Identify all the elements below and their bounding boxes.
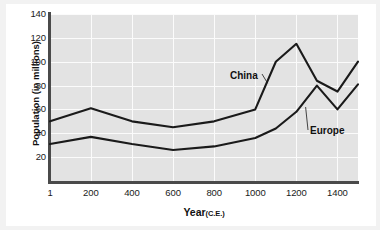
x-axis-title: Year(C.E.)	[50, 202, 358, 220]
gridline-horizontal	[50, 157, 358, 158]
gridline-horizontal	[50, 62, 358, 63]
gridline-vertical	[337, 14, 338, 181]
gridline-horizontal	[50, 14, 358, 15]
x-axis-line	[48, 181, 359, 184]
series-label-europe: Europe	[310, 126, 344, 136]
x-axis-title-text: Year	[183, 206, 205, 218]
x-tick-label: 200	[83, 188, 99, 198]
gridline-vertical	[255, 14, 256, 181]
gridline-vertical	[173, 14, 174, 181]
gridline-vertical	[132, 14, 133, 181]
population-line-chart: 20406080100120140 1200400600800100012001…	[0, 0, 380, 230]
plot-area	[50, 14, 358, 181]
x-tick-label: 1	[47, 188, 52, 198]
gridline-vertical	[296, 14, 297, 181]
x-axis-title-suffix: (C.E.)	[206, 209, 225, 218]
x-tick-label: 1000	[245, 188, 266, 198]
y-axis-title-text: Population (in millions)	[30, 41, 41, 146]
x-tick-label: 800	[206, 188, 222, 198]
gridline-horizontal	[50, 109, 358, 110]
gridline-vertical	[214, 14, 215, 181]
x-tick-label: 400	[124, 188, 140, 198]
gridline-horizontal	[50, 86, 358, 87]
y-axis-title: Population (in millions)	[30, 9, 41, 179]
chart-page: 20406080100120140 1200400600800100012001…	[0, 0, 380, 230]
x-tick-label: 600	[165, 188, 181, 198]
gridline-horizontal	[50, 38, 358, 39]
gridline-vertical	[91, 14, 92, 181]
x-tick-label: 1400	[327, 188, 348, 198]
series-label-china: China	[230, 71, 258, 81]
y-axis-line	[48, 12, 51, 183]
x-tick-label: 1200	[286, 188, 307, 198]
